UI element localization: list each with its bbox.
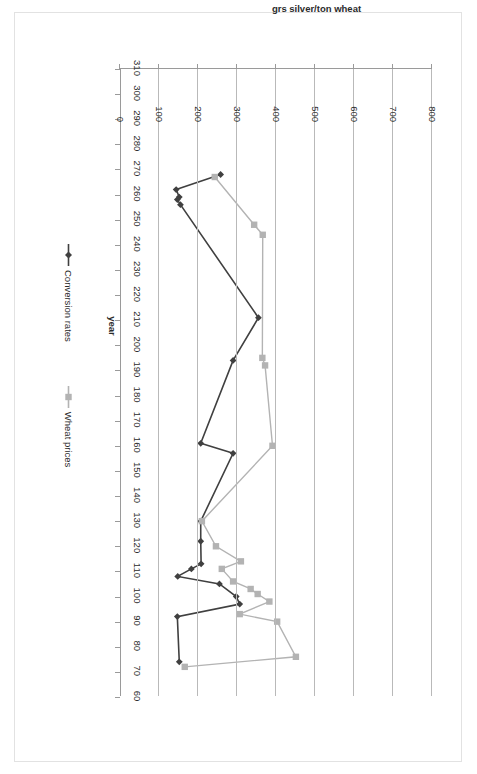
- data-point-marker: [262, 362, 268, 368]
- x-axis-title: year: [107, 12, 118, 640]
- data-point-marker: [173, 186, 180, 193]
- year-axis-tick-label: 200: [132, 336, 143, 352]
- legend-entry-wheat-prices[interactable]: Wheat prices: [63, 386, 74, 467]
- year-axis-tick-label: 60: [132, 691, 143, 702]
- data-point-marker: [217, 171, 224, 178]
- chart-stage: 0100200300400500600700800310300290280270…: [14, 12, 462, 762]
- legend-label-conversion-rates: Conversion rates: [63, 270, 74, 342]
- year-axis-tick-label: 270: [132, 161, 143, 177]
- data-point-marker: [236, 601, 243, 608]
- tick-year-axis: [115, 697, 120, 698]
- value-axis-tick-label: 300: [232, 62, 243, 122]
- year-axis-tick-label: 230: [132, 261, 143, 277]
- y-axis-title: grs silver/ton wheat: [161, 3, 473, 14]
- data-point-marker: [197, 440, 204, 447]
- year-axis-tick-label: 120: [132, 537, 143, 553]
- series-wheat-prices: [182, 174, 300, 670]
- legend-label-wheat-prices: Wheat prices: [63, 412, 74, 467]
- year-axis-tick-label: 90: [132, 615, 143, 626]
- legend-marker-wheat-prices: [64, 386, 73, 408]
- gridline-value: [314, 69, 315, 696]
- gridline-value: [392, 69, 393, 696]
- gridline-value: [353, 69, 354, 696]
- year-axis-tick-label: 190: [132, 362, 143, 378]
- gridline-value: [236, 69, 237, 696]
- gridline-value: [158, 69, 159, 696]
- data-point-marker: [199, 518, 205, 524]
- value-axis-tick-label: 200: [193, 62, 204, 122]
- data-point-marker: [237, 611, 243, 617]
- data-point-marker: [219, 566, 225, 572]
- year-axis-tick-label: 140: [132, 487, 143, 503]
- year-axis-tick-label: 80: [132, 640, 143, 651]
- year-axis-tick-label: 150: [132, 462, 143, 478]
- chart-legend: Conversion rates Wheat prices: [63, 244, 74, 467]
- year-axis-tick-label: 70: [132, 666, 143, 677]
- series-layer: [120, 69, 432, 697]
- data-point-marker: [174, 573, 181, 580]
- year-axis-tick-label: 160: [132, 437, 143, 453]
- year-axis-tick-label: 260: [132, 186, 143, 202]
- value-axis-tick-label: 500: [310, 62, 321, 122]
- year-axis-tick-label: 300: [132, 85, 143, 101]
- data-point-marker: [212, 174, 218, 180]
- plot-area: [120, 68, 432, 696]
- year-axis-tick-label: 310: [132, 60, 143, 76]
- legend-marker-conversion-rates: [64, 244, 73, 266]
- year-axis-tick-label: 210: [132, 311, 143, 327]
- data-point-marker: [260, 232, 266, 238]
- gridline-value: [431, 69, 432, 696]
- data-point-marker: [238, 558, 244, 564]
- data-point-marker: [174, 613, 181, 620]
- data-point-marker: [247, 586, 253, 592]
- data-point-marker: [197, 538, 204, 545]
- year-axis-tick-label: 180: [132, 387, 143, 403]
- value-axis-tick-label: 600: [349, 62, 360, 122]
- value-axis-tick-label: 800: [427, 62, 438, 122]
- year-axis-tick-label: 280: [132, 135, 143, 151]
- data-point-marker: [182, 664, 188, 670]
- series-line: [176, 175, 258, 662]
- value-axis-tick-label: 400: [271, 62, 282, 122]
- year-axis-tick-label: 110: [132, 563, 143, 578]
- data-point-marker: [266, 598, 272, 604]
- year-axis-tick-label: 130: [132, 512, 143, 528]
- gridline-value: [197, 69, 198, 696]
- data-point-marker: [198, 560, 205, 567]
- year-axis-tick-label: 290: [132, 110, 143, 126]
- year-axis-tick-label: 220: [132, 286, 143, 302]
- legend-entry-conversion-rates[interactable]: Conversion rates: [63, 244, 74, 342]
- gridline-value: [275, 69, 276, 696]
- chart-page: 0100200300400500600700800310300290280270…: [0, 0, 477, 774]
- data-point-marker: [251, 222, 257, 228]
- data-point-marker: [293, 654, 299, 660]
- value-axis-tick-label: 100: [154, 62, 165, 122]
- data-point-marker: [254, 591, 260, 597]
- tick-year-axis: [115, 672, 120, 673]
- data-point-marker: [213, 543, 219, 549]
- series-line: [185, 177, 296, 667]
- year-axis-tick-label: 250: [132, 211, 143, 227]
- data-point-marker: [259, 355, 265, 361]
- year-axis-tick-label: 100: [132, 588, 143, 604]
- value-axis-tick-label: 700: [388, 62, 399, 122]
- year-axis-tick-label: 240: [132, 236, 143, 252]
- data-point-marker: [188, 565, 195, 572]
- tick-year-axis: [115, 647, 120, 648]
- year-axis-tick-label: 170: [132, 412, 143, 428]
